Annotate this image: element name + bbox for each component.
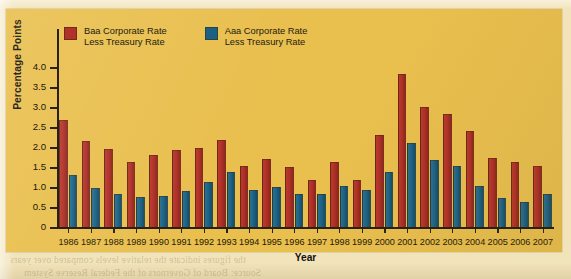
bar-baa[interactable] <box>149 155 158 228</box>
bar-group: 1992 <box>195 58 218 228</box>
bar-baa[interactable] <box>104 149 113 228</box>
bar-baa[interactable] <box>308 180 317 228</box>
chart-legend: Baa Corporate Rate Less Treasury Rate Aa… <box>64 26 307 49</box>
legend-label-aaa: Aaa Corporate Rate Less Treasury Rate <box>225 26 308 49</box>
bar-baa[interactable] <box>82 141 91 228</box>
bar-aaa[interactable] <box>114 194 123 228</box>
bar-baa[interactable] <box>488 158 497 228</box>
y-axis-tick: 3.5 <box>50 87 58 88</box>
bar-baa[interactable] <box>262 159 271 228</box>
bar-group: 1986 <box>59 58 82 228</box>
legend-entry-baa: Baa Corporate Rate Less Treasury Rate <box>64 26 167 49</box>
y-axis-tick-label: 0 <box>41 221 46 232</box>
bar-group: 1994 <box>240 58 263 228</box>
bar-aaa[interactable] <box>272 187 281 228</box>
bar-aaa[interactable] <box>498 198 507 228</box>
y-axis-tick-label: 2.5 <box>33 121 46 132</box>
bar-baa[interactable] <box>375 135 384 228</box>
bar-aaa[interactable] <box>69 175 78 228</box>
bar-aaa[interactable] <box>430 160 439 228</box>
bar-baa[interactable] <box>195 148 204 228</box>
bar-baa[interactable] <box>127 162 136 228</box>
x-axis-line <box>57 227 554 229</box>
bar-baa[interactable] <box>466 131 475 228</box>
bar-baa[interactable] <box>330 162 339 228</box>
bar-aaa[interactable] <box>249 190 258 228</box>
x-axis-title: Year <box>57 252 554 263</box>
bar-aaa[interactable] <box>159 196 168 228</box>
bar-aaa[interactable] <box>317 194 326 228</box>
bar-baa[interactable] <box>511 162 520 228</box>
legend-entry-aaa: Aaa Corporate Rate Less Treasury Rate <box>205 26 308 49</box>
bar-baa[interactable] <box>217 140 226 228</box>
bar-aaa[interactable] <box>520 202 529 228</box>
bar-aaa[interactable] <box>362 190 371 228</box>
legend-label-baa-line2: Less Treasury Rate <box>84 37 165 47</box>
bar-baa[interactable] <box>353 180 362 228</box>
y-axis-tick: 0.5 <box>50 207 58 208</box>
bar-group: 1990 <box>149 58 172 228</box>
bar-group: 1998 <box>330 58 353 228</box>
bar-group: 2001 <box>398 58 421 228</box>
chart-figure: Baa Corporate Rate Less Treasury Rate Aa… <box>6 9 562 252</box>
bar-baa[interactable] <box>443 114 452 228</box>
y-axis-tick-label: 3.5 <box>33 81 46 92</box>
bar-baa[interactable] <box>240 166 249 228</box>
bar-aaa[interactable] <box>385 172 394 228</box>
bar-group: 1993 <box>217 58 240 228</box>
legend-swatch-aaa-icon <box>205 27 218 40</box>
y-axis-tick: 3.0 <box>50 107 58 108</box>
y-axis-tick-label: 1.0 <box>33 181 46 192</box>
bar-aaa[interactable] <box>136 197 145 228</box>
y-axis-tick-label: 3.0 <box>33 101 46 112</box>
legend-swatch-baa-icon <box>64 27 77 40</box>
bar-aaa[interactable] <box>475 186 484 228</box>
bar-group: 1991 <box>172 58 195 228</box>
bar-aaa[interactable] <box>91 188 100 228</box>
scanned-page: the spirit to employ during consumers po… <box>0 0 571 279</box>
bar-aaa[interactable] <box>204 182 213 228</box>
bar-group: 1995 <box>262 58 285 228</box>
bar-baa[interactable] <box>533 166 542 228</box>
bar-group: 2004 <box>466 58 489 228</box>
y-axis-title: Percentage Points <box>12 0 23 130</box>
bar-aaa[interactable] <box>295 194 304 228</box>
y-axis-tick-label: 4.0 <box>33 61 46 72</box>
legend-label-baa: Baa Corporate Rate Less Treasury Rate <box>84 26 167 49</box>
y-axis-tick-label: 0.5 <box>33 201 46 212</box>
y-axis-tick: 2.0 <box>50 147 58 148</box>
bar-aaa[interactable] <box>453 166 462 228</box>
bar-group: 2000 <box>375 58 398 228</box>
bar-group: 2007 <box>533 58 556 228</box>
bar-baa[interactable] <box>285 167 294 228</box>
bar-baa[interactable] <box>59 120 68 228</box>
y-axis-tick-label: 1.5 <box>33 161 46 172</box>
bleed-text: Source: Board of Governors of the Federa… <box>24 268 261 278</box>
y-axis-tick: 2.5 <box>50 127 58 128</box>
bar-group: 2006 <box>511 58 534 228</box>
bar-group: 1989 <box>127 58 150 228</box>
bar-group: 2003 <box>443 58 466 228</box>
bar-aaa[interactable] <box>543 194 552 228</box>
legend-label-aaa-line1: Aaa Corporate Rate <box>225 26 308 36</box>
bar-group: 1997 <box>308 58 331 228</box>
y-axis-tick: 1.0 <box>50 187 58 188</box>
legend-label-aaa-line2: Less Treasury Rate <box>225 37 306 47</box>
bar-baa[interactable] <box>420 107 429 228</box>
bar-baa[interactable] <box>398 74 407 228</box>
bar-aaa[interactable] <box>227 172 236 228</box>
bar-aaa[interactable] <box>407 143 416 228</box>
bar-group: 1988 <box>104 58 127 228</box>
bar-group: 1999 <box>353 58 376 228</box>
x-axis-tick-label: 2007 <box>526 237 560 247</box>
y-axis-tick: 4.0 <box>50 67 58 68</box>
bar-group: 1987 <box>82 58 105 228</box>
bar-group: 1996 <box>285 58 308 228</box>
y-axis-tick: 1.5 <box>50 167 58 168</box>
y-axis-tick-label: 2.0 <box>33 141 46 152</box>
bar-aaa[interactable] <box>182 191 191 228</box>
bar-baa[interactable] <box>172 150 181 228</box>
bar-aaa[interactable] <box>340 186 349 228</box>
bar-group: 2005 <box>488 58 511 228</box>
bar-group: 2002 <box>420 58 443 228</box>
